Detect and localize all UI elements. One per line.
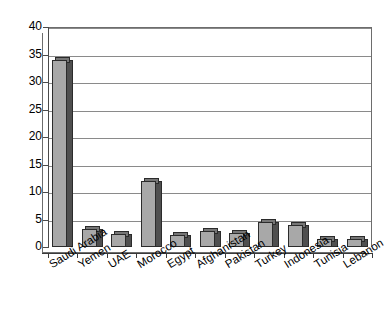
y-axis-tick-mark: [43, 27, 49, 28]
gridline: [48, 28, 371, 29]
y-axis-tick-label: 5: [16, 213, 42, 225]
gridline: [48, 56, 371, 57]
y-axis-tick-mark: [43, 247, 49, 248]
bar: [111, 228, 132, 247]
y-axis-tick-mark: [43, 137, 49, 138]
bar-front-face: [347, 239, 362, 247]
y-axis-tick-label: 0: [16, 240, 42, 252]
y-axis-tick-mark: [43, 165, 49, 166]
gridline: [48, 83, 371, 84]
y-axis-tick-mark: [43, 192, 49, 193]
y-axis-tick-label: 25: [16, 103, 42, 115]
bar: [52, 54, 73, 247]
gridline: [48, 221, 371, 222]
y-axis-tick-mark: [43, 82, 49, 83]
y-axis-tick-label: 20: [16, 130, 42, 142]
bar-side-face: [67, 60, 73, 247]
bar: [200, 225, 221, 248]
y-axis-tick-label: 10: [16, 185, 42, 197]
gridline: [48, 138, 371, 139]
bar-side-face: [156, 181, 162, 247]
bar-front-face: [111, 234, 126, 247]
y-axis-tick-mark: [43, 55, 49, 56]
y-axis-tick-mark: [43, 110, 49, 111]
y-axis-tick-label: 15: [16, 158, 42, 170]
y-axis-tick-label: 35: [16, 48, 42, 60]
bar-chart: 0510152025303540 Saudi ArabiaYemenUAEMor…: [0, 0, 392, 325]
y-axis-tick-label: 40: [16, 20, 42, 32]
plot-area: [48, 27, 372, 247]
bar-front-face: [141, 181, 156, 247]
y-axis-tick-label: 30: [16, 75, 42, 87]
bar: [288, 219, 309, 247]
bar-front-face: [288, 225, 303, 247]
gridline: [48, 166, 371, 167]
bar-front-face: [200, 231, 215, 248]
bar-front-face: [52, 60, 67, 247]
gridline: [48, 193, 371, 194]
bar: [141, 175, 162, 247]
y-axis-tick-mark: [43, 220, 49, 221]
gridline: [48, 111, 371, 112]
